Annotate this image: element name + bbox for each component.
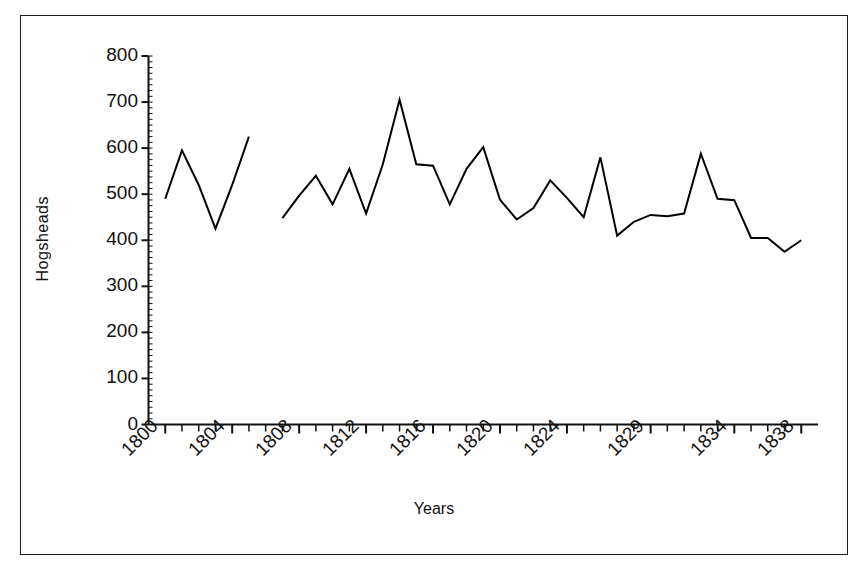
data-series-lines: [165, 100, 801, 252]
y-tick-label: 200: [60, 320, 138, 342]
y-tick-label: 600: [60, 136, 138, 158]
chart-figure: 0100200300400500600700800 18001804180818…: [0, 0, 868, 578]
y-tick-label: 400: [60, 228, 138, 250]
data-line: [165, 137, 249, 229]
y-tick-label: 800: [60, 44, 138, 66]
y-axis-ticks: [142, 56, 149, 425]
axes: [149, 56, 819, 425]
y-tick-label: 100: [60, 366, 138, 388]
y-tick-label: 300: [60, 274, 138, 296]
data-line: [282, 100, 801, 252]
y-tick-label: 0: [60, 413, 138, 435]
y-tick-label: 500: [60, 182, 138, 204]
x-axis-title: Years: [0, 500, 868, 518]
y-axis-title: Hogsheads: [34, 196, 52, 281]
y-tick-label: 700: [60, 90, 138, 112]
